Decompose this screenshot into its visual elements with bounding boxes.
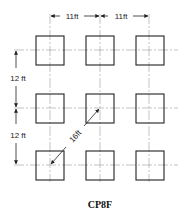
horizontal-dimension: 11ft 11ft [51,12,148,21]
pad [136,151,164,180]
vertical-dimension: 12 ft 12 ft [10,51,26,164]
diagonal-spacing-label: 16ft [68,128,84,145]
pad-layout-diagram: 11ft 11ft 12 ft 12 ft 16ft CP8F [0,0,187,217]
horizontal-spacing-label-1: 11ft [66,12,80,21]
pad [136,36,164,65]
diagonal-dimension: 16ft [51,109,99,164]
vertical-spacing-label-2: 12 ft [10,131,26,140]
vertical-centerlines [50,14,149,182]
vertical-spacing-label-1: 12 ft [10,74,26,83]
horizontal-centerlines [14,50,178,165]
diagram-caption: CP8F [88,199,112,210]
horizontal-spacing-label-2: 11ft [115,12,129,21]
pad [136,94,164,123]
